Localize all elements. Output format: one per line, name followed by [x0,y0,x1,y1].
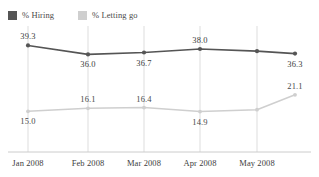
legend-item-hiring: % Hiring [8,9,54,21]
data-point [255,49,259,53]
x-tick-label: Jan 2008 [12,158,43,169]
data-label: 36.0 [80,59,95,69]
data-point [293,51,297,55]
data-point [293,93,297,97]
legend-item-letting-go: % Letting go [78,9,138,21]
chart-legend: % Hiring % Letting go [0,0,319,28]
legend-label-hiring: % Hiring [22,10,54,20]
data-label: 36.7 [136,58,151,68]
data-point [142,106,146,110]
chart-container: % Hiring % Letting go 39.336.036.738.036… [0,0,319,177]
data-point [198,110,202,114]
series-line-letting-go [28,95,295,112]
plot-area [0,26,319,154]
data-label: 21.1 [287,81,302,91]
data-point [142,50,146,54]
data-label: 39.3 [20,31,35,41]
x-tick-label: May 2008 [239,158,275,169]
legend-swatch-letting-go [78,11,87,20]
data-point [86,52,90,56]
plot-svg [0,26,319,154]
data-label: 15.0 [20,116,35,126]
series-line-hiring [28,45,295,54]
legend-label-letting-go: % Letting go [92,10,138,20]
data-label: 16.1 [80,94,95,104]
data-point [26,109,30,113]
data-point [255,108,259,112]
data-point [198,47,202,51]
x-tick-label: Feb 2008 [72,158,105,169]
x-tick-label: Mar 2008 [127,158,161,169]
legend-swatch-hiring [8,11,17,20]
data-label: 16.4 [136,94,151,104]
x-tick-label: Apr 2008 [183,158,216,169]
data-label: 38.0 [192,35,207,45]
data-point [86,106,90,110]
data-label: 36.3 [287,59,302,69]
x-axis: Jan 2008Feb 2008Mar 2008Apr 2008May 2008 [0,154,319,177]
data-label: 14.9 [192,117,207,127]
data-point [26,43,30,47]
